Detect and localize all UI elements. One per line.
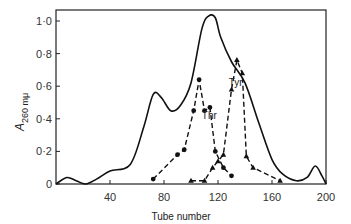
plot-frame <box>56 10 326 184</box>
tyr-point <box>234 57 240 62</box>
y-tick-label: 0·4 <box>36 113 52 125</box>
thr-point <box>151 177 156 182</box>
tyr-point <box>240 70 246 75</box>
y-tick-label: 0·2 <box>36 145 52 157</box>
x-tick-label: 80 <box>158 191 170 203</box>
thr-point <box>213 149 218 154</box>
thr-point <box>229 173 234 178</box>
tyr-point <box>244 153 250 158</box>
x-tick-label: 200 <box>317 191 335 203</box>
thr-line <box>153 80 231 179</box>
y-axis-label: A260 mμ <box>13 93 30 132</box>
x-tick-label: 160 <box>263 191 281 203</box>
tyr-point <box>277 178 283 183</box>
thr-point <box>197 77 202 82</box>
tyr-point <box>210 165 216 170</box>
x-axis-label: Tube number <box>151 211 211 222</box>
total-absorbance-line <box>56 15 326 184</box>
thr-point <box>175 152 180 157</box>
thr-point <box>221 165 226 170</box>
tyr-point <box>221 152 227 157</box>
y-tick-label: 1·0 <box>36 15 52 27</box>
annotation-thr: Thr <box>202 110 218 121</box>
annotation-tyr: Tyr <box>229 77 244 88</box>
y-tick-label: 0·6 <box>36 80 52 92</box>
chart: 00·20·40·60·81·04080120160200Tube number… <box>0 0 351 224</box>
x-tick-label: 120 <box>209 191 227 203</box>
thr-point <box>182 147 187 152</box>
thr-point <box>191 108 196 113</box>
y-tick-label: 0 <box>46 178 52 190</box>
x-tick-label: 40 <box>104 191 116 203</box>
y-tick-label: 0·8 <box>36 48 52 60</box>
